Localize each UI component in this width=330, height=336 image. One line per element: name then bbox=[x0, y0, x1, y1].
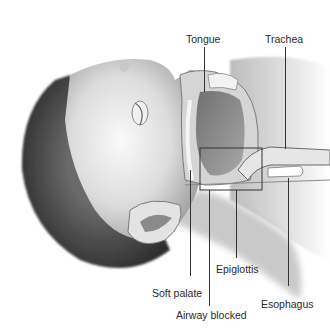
label-airway-blocked: Airway blocked bbox=[176, 309, 247, 321]
soft-palate-leader-line bbox=[190, 170, 191, 276]
trachea-leader-line bbox=[285, 47, 286, 149]
head-illustration bbox=[0, 0, 330, 336]
airway-blocked-leader-line bbox=[209, 190, 210, 306]
esophagus-leader-line bbox=[288, 178, 289, 286]
label-epiglottis: Epiglottis bbox=[216, 263, 259, 275]
closed-eye bbox=[132, 101, 148, 125]
tongue-shape bbox=[196, 91, 245, 175]
label-esophagus: Esophagus bbox=[261, 298, 314, 310]
label-tongue: Tongue bbox=[186, 33, 220, 45]
label-trachea: Trachea bbox=[265, 33, 303, 45]
anatomy-figure: Tongue Trachea Epiglottis Soft palate Ai… bbox=[0, 0, 330, 336]
label-soft-palate: Soft palate bbox=[152, 287, 202, 299]
epiglottis-leader-line bbox=[236, 190, 237, 258]
esophagus-tube bbox=[268, 166, 303, 177]
tongue-leader-line bbox=[204, 47, 205, 92]
